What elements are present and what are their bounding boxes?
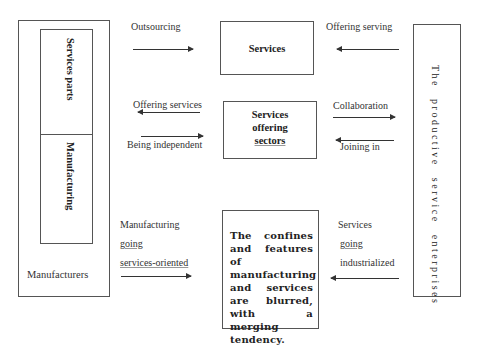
offering-services-label: Offering services [133,99,202,110]
services-parts-section: Services parts [41,30,92,135]
being-independent-arrow [141,136,203,137]
productive-service-enterprises-label: The productive service enterprises [430,65,441,305]
sectors-line-1: Services [224,108,316,121]
outsourcing-arrow [133,49,193,50]
services-box: Services [220,21,314,75]
offering-services-arrow [138,112,200,113]
services-box-label: Services [249,43,286,54]
collaboration-arrow [333,117,395,118]
manufacturing-label: Manufacturing [65,142,76,210]
merging-tendency-box: The confines and features of manufacturi… [222,210,319,329]
mfg-line-1: Manufacturing [120,215,188,234]
outsourcing-label: Outsourcing [131,21,180,32]
svc-line-2: going [338,234,394,253]
manufacturers-label: Manufacturers [27,269,88,280]
manufacturing-going-services-label: Manufacturing going services-oriented [120,215,188,272]
offering-serving-label: Offering serving [326,21,392,32]
being-independent-label: Being independent [127,139,202,150]
manufacturing-arrow [121,276,191,277]
services-industrialized-arrow [331,278,399,279]
productive-service-enterprises-box: The productive service enterprises [413,24,461,297]
inner-stack-box: Services parts Manufacturing [40,29,93,244]
collaboration-label: Collaboration [333,100,388,111]
mfg-line-2: going [120,234,188,253]
joining-in-label: Joining in [340,141,380,152]
services-going-industrialized-label: Services going industrialized [338,215,394,272]
sectors-line-2: offering [224,121,316,134]
merging-tendency-text: The confines and features of manufacturi… [223,211,318,346]
services-offering-sectors-box: Services offering sectors [223,101,317,159]
offering-serving-arrow [337,49,399,50]
sectors-line-3: sectors [224,134,316,147]
mfg-line-3: services-oriented [120,253,188,272]
svc-line-1: Services [338,215,394,234]
services-parts-label: Services parts [65,38,76,101]
svc-line-3: industrialized [338,253,394,272]
